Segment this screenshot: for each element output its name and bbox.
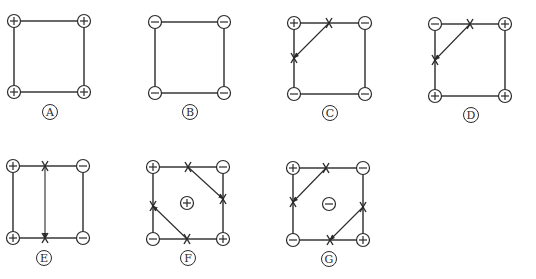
corner-sign-bottom-left <box>8 86 21 99</box>
panel-g: G <box>287 162 370 267</box>
contour-arrow <box>435 24 470 60</box>
center-sign <box>181 197 194 210</box>
panel-label: A <box>43 105 58 120</box>
corner-sign-top-right <box>78 15 91 28</box>
corner-sign-top-left <box>287 162 300 175</box>
panel-a: A <box>8 15 91 120</box>
corner-sign-bottom-left <box>287 234 300 247</box>
svg-text:A: A <box>45 106 55 119</box>
center-sign <box>323 198 336 211</box>
corner-sign-bottom-left <box>288 88 301 101</box>
corner-sign-top-right <box>357 162 370 175</box>
corner-sign-top-right <box>359 17 372 30</box>
panel-f: F <box>147 161 230 266</box>
panel-label: D <box>464 108 479 123</box>
corner-sign-bottom-right <box>359 88 372 101</box>
panel-b: B <box>149 16 231 120</box>
corner-sign-top-left <box>288 17 301 30</box>
panel-label: C <box>323 106 338 121</box>
svg-text:C: C <box>326 107 334 120</box>
contour-arrow <box>153 206 187 239</box>
svg-text:B: B <box>186 106 194 119</box>
panel-label: F <box>181 251 196 266</box>
corner-sign-bottom-right <box>499 90 512 103</box>
panel-c: C <box>288 17 372 121</box>
panel-label: B <box>183 105 198 120</box>
cell-square <box>435 24 505 96</box>
corner-sign-bottom-left <box>147 233 160 246</box>
corner-sign-bottom-right <box>218 87 231 100</box>
corner-sign-bottom-left <box>149 87 162 100</box>
panel-label: G <box>322 252 337 267</box>
cell-square <box>13 166 83 238</box>
contour-arrow <box>188 167 223 199</box>
corner-sign-top-right <box>499 18 512 31</box>
cell-square <box>14 21 84 92</box>
corner-sign-top-right <box>218 16 231 29</box>
corner-sign-top-right <box>77 160 90 173</box>
corner-sign-bottom-left <box>429 90 442 103</box>
corner-sign-top-left <box>8 15 21 28</box>
panel-d: D <box>429 18 512 123</box>
corner-sign-top-left <box>429 18 442 31</box>
corner-sign-top-left <box>147 161 160 174</box>
corner-sign-bottom-right <box>77 232 90 245</box>
cell-square <box>294 23 365 94</box>
svg-text:G: G <box>325 253 334 266</box>
svg-text:F: F <box>184 252 192 265</box>
corner-sign-bottom-right <box>78 86 91 99</box>
marching-squares-diagram: ABCDEFG <box>0 0 536 279</box>
corner-sign-bottom-left <box>7 232 20 245</box>
corner-sign-top-left <box>149 16 162 29</box>
contour-arrow <box>294 23 329 58</box>
corner-sign-bottom-right <box>217 233 230 246</box>
svg-text:E: E <box>40 252 48 265</box>
cell-square <box>155 22 224 93</box>
corner-sign-top-right <box>217 161 230 174</box>
svg-text:D: D <box>467 109 476 122</box>
corner-sign-bottom-right <box>357 234 370 247</box>
panel-e: E <box>7 160 90 266</box>
panel-label: E <box>37 251 52 266</box>
contour-arrow <box>293 168 326 202</box>
corner-sign-top-left <box>7 160 20 173</box>
